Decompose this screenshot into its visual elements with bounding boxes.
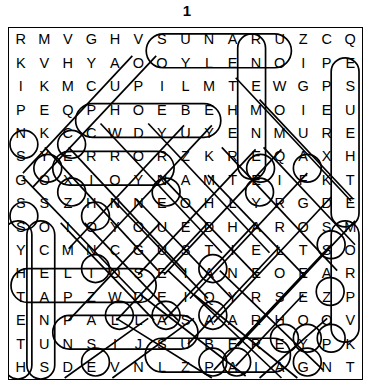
grid-cell[interactable]: Z [80, 285, 104, 308]
grid-cell[interactable]: S [174, 239, 198, 262]
grid-cell[interactable]: N [150, 168, 174, 191]
grid-cell[interactable]: I [80, 262, 104, 285]
grid-cell[interactable]: V [56, 28, 80, 51]
grid-cell[interactable]: L [103, 309, 127, 332]
grid-cell[interactable]: S [9, 192, 33, 215]
grid-cell[interactable]: A [244, 215, 268, 238]
grid-cell[interactable]: I [103, 332, 127, 355]
grid-cell[interactable]: T [338, 356, 362, 379]
grid-cell[interactable]: Q [197, 285, 221, 308]
grid-cell[interactable]: G [291, 75, 315, 98]
grid-cell[interactable]: V [338, 309, 362, 332]
grid-cell[interactable]: E [150, 192, 174, 215]
grid-cell[interactable]: Z [291, 28, 315, 51]
grid-cell[interactable]: I [221, 239, 245, 262]
grid-cell[interactable]: M [197, 168, 221, 191]
grid-cell[interactable]: U [174, 122, 198, 145]
grid-cell[interactable]: M [338, 215, 362, 238]
grid-cell[interactable]: R [268, 192, 292, 215]
grid-cell[interactable]: V [103, 356, 127, 379]
grid-cell[interactable]: I [268, 168, 292, 191]
grid-cell[interactable]: E [221, 122, 245, 145]
grid-cell[interactable]: S [9, 215, 33, 238]
grid-cell[interactable]: E [338, 122, 362, 145]
grid-cell[interactable]: I [56, 215, 80, 238]
grid-cell[interactable]: G [80, 28, 104, 51]
grid-cell[interactable]: N [103, 192, 127, 215]
grid-cell[interactable]: N [244, 51, 268, 74]
grid-cell[interactable]: G [291, 192, 315, 215]
grid-cell[interactable]: N [33, 309, 57, 332]
grid-cell[interactable]: O [33, 168, 57, 191]
grid-cell[interactable]: N [221, 262, 245, 285]
grid-cell[interactable]: E [197, 98, 221, 121]
grid-cell[interactable]: I [291, 98, 315, 121]
grid-cell[interactable]: P [80, 98, 104, 121]
grid-cell[interactable]: E [244, 262, 268, 285]
grid-cell[interactable]: T [221, 75, 245, 98]
grid-cell[interactable]: K [33, 122, 57, 145]
grid-cell[interactable]: O [103, 262, 127, 285]
grid-cell[interactable]: S [150, 332, 174, 355]
grid-cell[interactable]: W [103, 285, 127, 308]
grid-cell[interactable]: E [291, 262, 315, 285]
grid-cell[interactable]: R [244, 309, 268, 332]
grid-cell[interactable]: I [9, 75, 33, 98]
grid-cell[interactable]: L [174, 75, 198, 98]
grid-cell[interactable]: Y [244, 192, 268, 215]
grid-cell[interactable]: A [150, 309, 174, 332]
grid-cell[interactable]: E [244, 168, 268, 191]
grid-cell[interactable]: N [127, 192, 151, 215]
grid-cell[interactable]: M [56, 239, 80, 262]
grid-cell[interactable]: L [197, 51, 221, 74]
grid-cell[interactable]: O [103, 168, 127, 191]
grid-cell[interactable]: Z [56, 192, 80, 215]
grid-cell[interactable]: O [268, 262, 292, 285]
grid-cell[interactable]: Y [33, 145, 57, 168]
grid-cell[interactable]: S [268, 285, 292, 308]
grid-cell[interactable]: S [33, 192, 57, 215]
grid-cell[interactable]: I [174, 285, 198, 308]
grid-cell[interactable]: S [150, 28, 174, 51]
grid-cell[interactable]: H [221, 98, 245, 121]
grid-cell[interactable]: L [268, 239, 292, 262]
grid-cell[interactable]: I [174, 262, 198, 285]
grid-cell[interactable]: R [244, 28, 268, 51]
grid-cell[interactable]: R [150, 145, 174, 168]
grid-cell[interactable]: Y [9, 239, 33, 262]
grid-cell[interactable]: O [127, 98, 151, 121]
grid-cell[interactable]: E [338, 192, 362, 215]
grid-cell[interactable]: K [9, 51, 33, 74]
grid-cell[interactable]: E [221, 332, 245, 355]
grid-cell[interactable]: U [150, 239, 174, 262]
grid-cell[interactable]: E [80, 356, 104, 379]
grid-cell[interactable]: E [244, 145, 268, 168]
grid-cell[interactable]: M [197, 75, 221, 98]
grid-cell[interactable]: A [221, 356, 245, 379]
grid-cell[interactable]: C [103, 239, 127, 262]
grid-cell[interactable]: Y [103, 215, 127, 238]
grid-cell[interactable]: B [174, 98, 198, 121]
grid-cell[interactable]: I [291, 51, 315, 74]
grid-cell[interactable]: L [56, 262, 80, 285]
grid-cell[interactable]: A [268, 356, 292, 379]
grid-cell[interactable]: Y [150, 122, 174, 145]
grid-cell[interactable]: E [268, 332, 292, 355]
grid-cell[interactable]: E [291, 285, 315, 308]
grid-cell[interactable]: P [338, 285, 362, 308]
grid-cell[interactable]: S [80, 332, 104, 355]
grid-cell[interactable]: Y [291, 332, 315, 355]
grid-cell[interactable]: U [174, 28, 198, 51]
grid-cell[interactable]: O [315, 309, 339, 332]
grid-cell[interactable]: H [197, 192, 221, 215]
grid-cell[interactable]: R [315, 122, 339, 145]
grid-cell[interactable]: U [268, 28, 292, 51]
grid-cell[interactable]: P [9, 98, 33, 121]
grid-cell[interactable]: K [197, 145, 221, 168]
grid-cell[interactable]: E [244, 75, 268, 98]
grid-cell[interactable]: A [291, 145, 315, 168]
grid-cell[interactable]: U [150, 215, 174, 238]
grid-cell[interactable]: D [127, 122, 151, 145]
grid-cell[interactable]: E [150, 285, 174, 308]
grid-cell[interactable]: I [80, 168, 104, 191]
